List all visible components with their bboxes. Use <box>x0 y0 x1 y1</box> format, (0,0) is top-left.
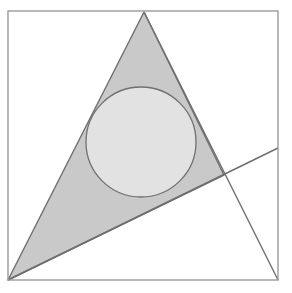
inscribed-circle <box>86 87 196 197</box>
figure-container <box>0 0 292 293</box>
geometry-canvas <box>0 0 292 293</box>
